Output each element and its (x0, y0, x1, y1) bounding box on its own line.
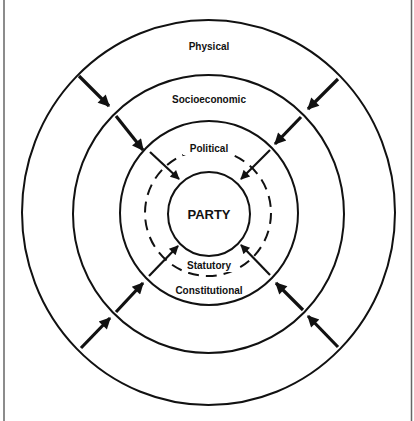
arrow-icon (116, 283, 143, 312)
arrow-chain-bottom-right (241, 245, 338, 347)
label-political: Political (190, 143, 229, 154)
arrow-icon (150, 152, 179, 179)
label-party: PARTY (187, 207, 230, 222)
label-constitutional: Constitutional (175, 285, 242, 296)
arrow-chain-bottom-left (81, 246, 178, 348)
arrow-icon (276, 283, 303, 310)
diagram-canvas: Physical Socioeconomic Political PARTY S… (0, 0, 414, 421)
arrow-icon (241, 150, 270, 179)
concentric-rings-diagram: Physical Socioeconomic Political PARTY S… (0, 0, 414, 421)
label-physical: Physical (189, 41, 230, 52)
arrow-icon (275, 117, 301, 144)
arrow-icon (241, 245, 270, 275)
arrow-icon (79, 76, 109, 106)
arrow-icon (116, 116, 143, 150)
label-socioeconomic: Socioeconomic (172, 94, 246, 105)
arrow-icon (308, 316, 338, 347)
arrow-icon (308, 79, 338, 109)
arrow-chain-top-right (241, 79, 338, 179)
arrow-icon (149, 246, 178, 276)
label-statutory: Statutory (187, 260, 231, 271)
arrow-icon (81, 318, 110, 348)
arrow-chain-top-left (79, 76, 179, 179)
